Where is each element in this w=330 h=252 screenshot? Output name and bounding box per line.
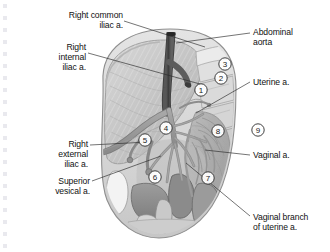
marker-9[interactable]: 9 <box>252 124 264 136</box>
marker-label-9: 9 <box>256 126 261 135</box>
marker-label-7: 7 <box>206 174 211 183</box>
marker-label-2: 2 <box>219 74 224 83</box>
marker-label-5: 5 <box>143 136 148 145</box>
marker-label-4: 4 <box>164 124 169 133</box>
marker-4[interactable]: 4 <box>160 122 172 134</box>
label-uterine-a: Uterine a. <box>253 77 323 87</box>
marker-label-6: 6 <box>153 173 158 182</box>
pubic-bone <box>106 171 128 215</box>
label-abdominal-aorta: Abdominal aorta <box>253 27 327 47</box>
label-vaginal-branch-uterine: Vaginal branch of uterine a. <box>253 212 329 232</box>
label-right-internal-iliac: Right internal iliac a. <box>20 42 86 73</box>
marker-3[interactable]: 3 <box>219 58 231 70</box>
label-vaginal-a: Vaginal a. <box>253 150 323 160</box>
marker-label-8: 8 <box>216 127 221 136</box>
label-superior-vesical: Superior vesical a. <box>20 176 90 196</box>
label-right-common-iliac: Right common iliac a. <box>28 10 123 30</box>
marker-1[interactable]: 1 <box>195 84 207 96</box>
marker-6[interactable]: 6 <box>149 171 161 183</box>
marker-5[interactable]: 5 <box>139 134 151 146</box>
marker-7[interactable]: 7 <box>202 172 214 184</box>
marker-2[interactable]: 2 <box>215 72 227 84</box>
marker-label-3: 3 <box>223 60 228 69</box>
marker-8[interactable]: 8 <box>212 125 224 137</box>
marker-label-1: 1 <box>199 86 204 95</box>
label-right-external-iliac: Right external iliac a. <box>26 139 88 170</box>
